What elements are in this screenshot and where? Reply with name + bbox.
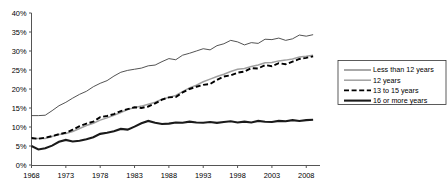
- y-tick-labels: 0%5%10%15%20%25%30%35%40%: [12, 9, 27, 170]
- x-axis-group: 196819731978198319881993199820032008: [23, 165, 320, 180]
- chart-svg: 0%5%10%15%20%25%30%35%40% 19681973197819…: [0, 0, 448, 190]
- x-tick-labels: 196819731978198319881993199820032008: [23, 171, 314, 180]
- x-tick-label: 2008: [298, 171, 314, 180]
- legend: Less than 12 years12 years13 to 15 years…: [338, 61, 446, 106]
- x-tick-label: 1983: [126, 171, 142, 180]
- x-tick-label: 1973: [58, 171, 74, 180]
- legend-label: Less than 12 years: [373, 65, 434, 74]
- y-tick-label: 40%: [12, 9, 27, 18]
- x-tick-label: 1968: [23, 171, 39, 180]
- x-tick-label: 1978: [92, 171, 108, 180]
- series-line: [32, 35, 314, 116]
- y-tick-label: 15%: [12, 104, 27, 113]
- x-tick-label: 1998: [229, 171, 245, 180]
- x-tick-label: 1988: [161, 171, 177, 180]
- legend-label: 12 years: [373, 76, 401, 85]
- y-tick-label: 20%: [12, 85, 27, 94]
- y-tick-label: 30%: [12, 47, 27, 56]
- y-tick-label: 0%: [16, 161, 27, 170]
- y-tick-label: 5%: [16, 142, 27, 151]
- line-chart: 0%5%10%15%20%25%30%35%40% 19681973197819…: [0, 0, 448, 190]
- legend-label: 13 to 15 years: [373, 86, 419, 95]
- series-line: [32, 120, 314, 150]
- y-tick-label: 10%: [12, 123, 27, 132]
- y-tick-label: 35%: [12, 28, 27, 37]
- legend-label: 16 or more years: [373, 96, 428, 105]
- x-tick-label: 2003: [264, 171, 280, 180]
- y-tick-label: 25%: [12, 66, 27, 75]
- y-axis-group: 0%5%10%15%20%25%30%35%40%: [12, 9, 32, 170]
- x-tick-label: 1993: [195, 171, 211, 180]
- series-lines: [32, 35, 314, 150]
